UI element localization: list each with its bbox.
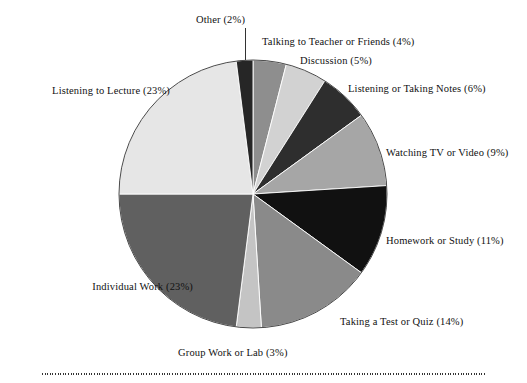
pie-label-other: Other (2%) <box>196 14 245 26</box>
pie-label-discussion: Discussion (5%) <box>300 55 372 67</box>
pie-label-listening-to-lecture: Listening to Lecture (23%) <box>52 85 170 97</box>
pie-label-individual-work: Individual Work (23%) <box>92 281 193 293</box>
pie-label-talking-to-teacher-or-friends: Talking to Teacher or Friends (4%) <box>262 36 414 48</box>
pie-label-homework-or-study: Homework or Study (11%) <box>386 235 504 247</box>
pie-label-group-work-or-lab: Group Work or Lab (3%) <box>178 347 288 359</box>
pie-label-listening-or-taking-notes: Listening or Taking Notes (6%) <box>348 83 486 95</box>
bottom-dotted-rule <box>42 373 485 375</box>
pie-chart-figure: Talking to Teacher or Friends (4%)Discus… <box>0 0 527 383</box>
pie-label-watching-tv-or-video: Watching TV or Video (9%) <box>386 147 508 159</box>
pie-slice-individual-work[interactable]: Individual Work (23%) <box>119 194 253 327</box>
pie-label-taking-a-test-or-quiz: Taking a Test or Quiz (14%) <box>340 316 463 328</box>
pie-slice-listening-to-lecture[interactable]: Listening to Lecture (23%) <box>119 61 253 194</box>
